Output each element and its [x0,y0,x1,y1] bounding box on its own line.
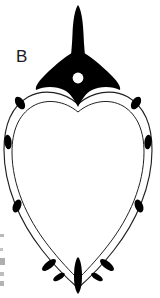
edge-fragment-2 [0,248,3,251]
edge-fragment-3 [0,258,5,265]
figure-panel: B [0,0,160,298]
specimen-line-drawing [0,0,160,298]
edge-fragment-1 [0,234,4,237]
edge-fragment-4 [0,272,4,276]
edge-fragment-5 [0,281,4,286]
perforation-hole [73,73,84,84]
panel-label: B [16,48,28,65]
